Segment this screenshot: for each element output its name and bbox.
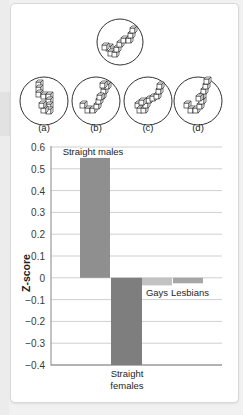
option-a-label: (a): [38, 122, 50, 133]
svg-text:0: 0: [39, 273, 45, 284]
target-figure: [97, 19, 143, 65]
label-straight-females-line2: females: [110, 380, 144, 391]
svg-text:0.6: 0.6: [31, 142, 45, 153]
svg-text:−0.4: −0.4: [25, 360, 45, 371]
svg-text:0.4: 0.4: [31, 186, 45, 197]
bar-straight-males: [80, 158, 110, 278]
label-straight-males: Straight males: [63, 146, 124, 157]
svg-text:0.1: 0.1: [31, 251, 45, 262]
label-straight-females-line1: Straight: [111, 368, 144, 379]
label-gays: Gays: [146, 287, 168, 298]
option-a[interactable]: (a): [20, 77, 68, 133]
bar-chart: 0.6 0.5 0.4 0.3 0.2 0.1 0 −0.1 −0.2 −0.3…: [20, 142, 222, 391]
svg-text:−0.3: −0.3: [25, 338, 45, 349]
option-b-label: (b): [90, 122, 102, 133]
option-b[interactable]: (b): [72, 77, 120, 133]
svg-text:0.2: 0.2: [31, 229, 45, 240]
option-c[interactable]: (c): [124, 77, 172, 133]
svg-text:0.3: 0.3: [31, 207, 45, 218]
label-lesbians: Lesbians: [171, 287, 209, 298]
option-d-label: (d): [192, 122, 204, 133]
svg-text:−0.1: −0.1: [25, 295, 45, 306]
y-axis-title: Z-score: [20, 254, 32, 292]
bar-straight-females: [111, 278, 142, 365]
option-d[interactable]: (d): [174, 77, 222, 133]
figure-svg: (a) (b) (c) (d): [0, 0, 243, 415]
svg-text:0.5: 0.5: [31, 164, 45, 175]
bar-lesbians: [173, 278, 203, 284]
bar-gays: [142, 278, 172, 286]
svg-text:−0.2: −0.2: [25, 316, 45, 327]
option-c-label: (c): [142, 122, 153, 133]
